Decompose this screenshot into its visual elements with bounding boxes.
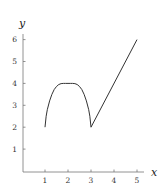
y-axis-label: y	[18, 17, 26, 30]
y-tick-label: 4	[12, 79, 17, 88]
x-tick-label: 5	[135, 176, 140, 185]
series-line	[91, 40, 137, 128]
y-tick-label: 6	[12, 35, 17, 44]
x-tick-label: 2	[66, 176, 71, 185]
y-tick-label: 2	[12, 123, 17, 132]
y-tick-label: 3	[12, 101, 17, 110]
chart: y x 12345 123456	[0, 0, 167, 191]
x-axis-label: x	[151, 166, 158, 179]
x-tick-label: 3	[89, 176, 94, 185]
y-tick-label: 5	[12, 57, 17, 66]
x-tick-label: 1	[43, 176, 48, 185]
x-tick-label: 4	[112, 176, 117, 185]
y-tick-label: 1	[12, 145, 17, 154]
series-arc	[45, 83, 91, 127]
